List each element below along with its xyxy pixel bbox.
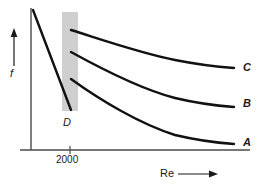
- x-axis-label: Re: [160, 168, 174, 179]
- curve-label-a: A: [243, 137, 251, 148]
- right-arrow-icon: [178, 171, 218, 178]
- up-arrow-icon: [11, 28, 18, 66]
- x-tick-label-2000: 2000: [56, 155, 78, 165]
- curve-c: [71, 30, 234, 68]
- curve-b: [71, 52, 234, 107]
- curve-label-d: D: [63, 117, 71, 128]
- transition-band: [62, 12, 78, 111]
- friction-factor-chart: C B A D f 2000 Re: [0, 0, 259, 186]
- curve-label-c: C: [243, 62, 251, 73]
- chart-canvas: [0, 0, 259, 186]
- y-axis-label: f: [10, 68, 13, 79]
- curve-label-b: B: [243, 98, 251, 109]
- curve-a: [71, 79, 234, 144]
